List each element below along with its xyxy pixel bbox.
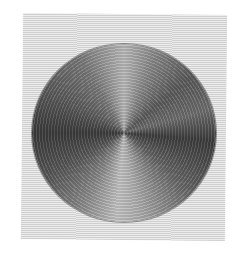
woven-placemat: [32, 44, 216, 222]
